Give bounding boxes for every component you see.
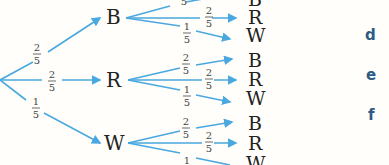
- svg-text:5: 5: [183, 129, 189, 140]
- svg-text:W: W: [246, 152, 266, 165]
- node-R: R: [106, 68, 122, 92]
- probability-tree: 2 5 2 5 1 5 B R W 5 2 5 1 5 B R W 2 5 2: [0, 0, 389, 165]
- subtree-W: 2 5 2 5 1 B R W: [128, 112, 266, 165]
- svg-text:1: 1: [33, 96, 39, 107]
- svg-text:5: 5: [183, 65, 189, 76]
- node-W: W: [104, 131, 125, 155]
- svg-text:5: 5: [184, 34, 190, 45]
- side-label-d: d: [365, 26, 376, 44]
- svg-text:2: 2: [206, 67, 212, 78]
- svg-text:2: 2: [206, 5, 212, 16]
- svg-text:2: 2: [206, 130, 212, 141]
- svg-text:1: 1: [184, 155, 190, 165]
- svg-text:2: 2: [183, 52, 189, 63]
- prob-num: 2: [34, 42, 40, 53]
- side-label-f: f: [368, 106, 375, 124]
- svg-text:W: W: [246, 24, 266, 46]
- node-B: B: [106, 5, 121, 29]
- svg-text:5: 5: [33, 109, 39, 120]
- subtree-B: 5 2 5 1 5 B R W: [126, 0, 266, 46]
- svg-text:5: 5: [181, 0, 187, 7]
- svg-text:B: B: [248, 112, 262, 134]
- svg-text:2: 2: [183, 116, 189, 127]
- side-label-e: e: [366, 66, 376, 84]
- svg-text:5: 5: [206, 18, 212, 29]
- svg-text:5: 5: [184, 97, 190, 108]
- subtree-R: 2 5 2 5 1 5 B R W: [128, 49, 266, 109]
- svg-text:5: 5: [34, 55, 40, 66]
- svg-text:5: 5: [49, 82, 55, 93]
- root-probabilities: 2 5 2 5 1 5: [32, 42, 56, 120]
- svg-text:5: 5: [206, 80, 212, 91]
- svg-text:1: 1: [184, 21, 190, 32]
- svg-text:R: R: [248, 132, 263, 154]
- svg-text:2: 2: [49, 69, 55, 80]
- svg-text:W: W: [246, 87, 266, 109]
- svg-text:5: 5: [206, 143, 212, 154]
- root-branches: [0, 18, 100, 143]
- svg-text:1: 1: [184, 84, 190, 95]
